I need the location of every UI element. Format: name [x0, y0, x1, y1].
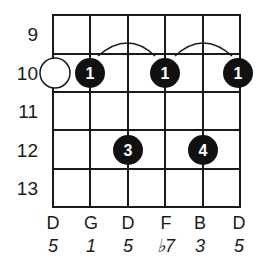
finger-number: 1 [234, 65, 243, 82]
finger-dot: 1 [150, 58, 180, 88]
string-note: D [233, 213, 246, 233]
fret-number: 11 [18, 101, 38, 122]
finger-dot: 3 [113, 135, 143, 165]
finger-number: 1 [161, 65, 170, 82]
string-note: D [122, 213, 135, 233]
string-interval: ♭7 [157, 236, 176, 256]
finger-number: 1 [86, 65, 95, 82]
string-interval: 5 [234, 236, 245, 256]
string-note: F [161, 213, 172, 233]
string-note: D [47, 213, 60, 233]
fret-number: 9 [27, 24, 38, 45]
finger-dot: 1 [223, 58, 253, 88]
chord-diagram: 9 10 11 12 13 1 1 1 3 4 D G D F B D 5 1 … [0, 0, 271, 269]
finger-number: 4 [199, 142, 208, 159]
finger-dot: 4 [188, 135, 218, 165]
string-note: G [84, 213, 98, 233]
open-string-marker [40, 58, 70, 88]
fret-number: 10 [17, 63, 38, 84]
string-interval: 5 [123, 236, 134, 256]
string-note: B [194, 213, 206, 233]
fret-number: 13 [17, 178, 38, 199]
finger-dot: 1 [75, 58, 105, 88]
string-interval: 5 [48, 236, 59, 256]
string-interval: 1 [86, 236, 96, 256]
string-interval: 3 [195, 236, 205, 256]
finger-number: 3 [124, 142, 133, 159]
fret-number: 12 [17, 140, 38, 161]
